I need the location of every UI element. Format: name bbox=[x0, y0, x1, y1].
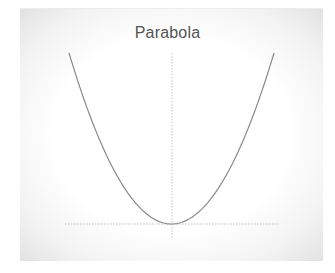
chart-plot-area bbox=[0, 0, 335, 273]
